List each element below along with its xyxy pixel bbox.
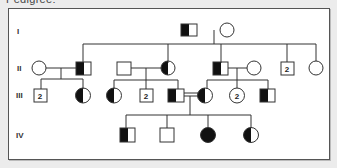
female-symbol: [32, 61, 46, 75]
carrier-female-symbol: [161, 61, 175, 75]
female-symbol: [309, 61, 323, 75]
female-symbol: [220, 23, 234, 37]
sibling-count: 2: [285, 65, 290, 74]
carrier-female-symbol: [244, 128, 259, 143]
sibling-count: 2: [38, 92, 43, 101]
male-symbol: [117, 62, 131, 75]
sibling-count: 2: [235, 92, 240, 101]
affected-female-symbol: [201, 128, 216, 143]
diagram-title: Pedigree:: [6, 0, 56, 5]
generation-label-iii: III: [16, 91, 23, 100]
carrier-female-symbol: [198, 88, 213, 103]
pedigree-chart: I II III IV 2 2: [9, 9, 329, 159]
pedigree-frame: I II III IV 2 2: [8, 8, 330, 160]
female-symbol: [247, 61, 261, 75]
male-symbol: [160, 128, 174, 142]
carrier-male-symbol: [168, 89, 184, 102]
carrier-female-symbol: [107, 88, 122, 103]
generation-label-ii: II: [17, 64, 21, 73]
carrier-male-symbol: [120, 128, 135, 142]
sibling-count: 2: [144, 92, 149, 101]
generation-label-i: I: [17, 27, 19, 36]
carrier-female-symbol: [76, 88, 91, 103]
carrier-male-symbol: [260, 89, 275, 102]
carrier-male-symbol: [181, 24, 197, 36]
carrier-male-symbol: [213, 62, 228, 75]
carrier-male-symbol: [76, 62, 91, 75]
generation-label-iv: IV: [16, 131, 24, 140]
